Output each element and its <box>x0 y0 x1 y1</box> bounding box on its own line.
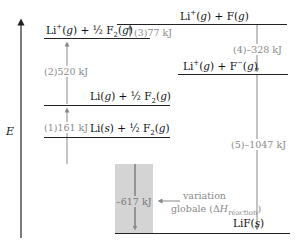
step-3-label: (3)77 kJ <box>134 27 172 38</box>
label-li-plus-f: Li+(g) + F(g) <box>180 9 249 22</box>
overall-annotation-line2: globale (ΔHréaction) <box>171 203 261 217</box>
step-4-label: (4)–328 kJ <box>233 44 282 55</box>
step-1-label: (1)161 kJ <box>44 122 88 133</box>
energy-axis-label: E <box>6 125 14 138</box>
label-li-s-half-f2: Li(s) + ½ F2(g) <box>90 122 170 137</box>
step-2-label: (2)520 kJ <box>44 66 88 77</box>
overall-value: –617 kJ <box>116 196 151 207</box>
level-li-g-half-f2 <box>44 105 170 106</box>
label-lif-s: LiF(s) <box>233 217 264 229</box>
overall-annotation-line1: variation <box>183 190 226 201</box>
level-li-plus-f-minus <box>178 74 288 75</box>
level-li-plus-f <box>117 24 287 25</box>
label-li-plus-f-minus: Li+(g) + F−(g) <box>183 59 258 72</box>
label-li-g-half-f2: Li(g) + ½ F2(g) <box>90 90 171 105</box>
level-lif-s <box>115 233 290 234</box>
label-li-plus-half-f2: Li+(g) + ½ F2(g) <box>46 23 133 39</box>
level-li-s-half-f2 <box>44 137 170 138</box>
step-5-label: (5)–1047 kJ <box>231 139 286 150</box>
